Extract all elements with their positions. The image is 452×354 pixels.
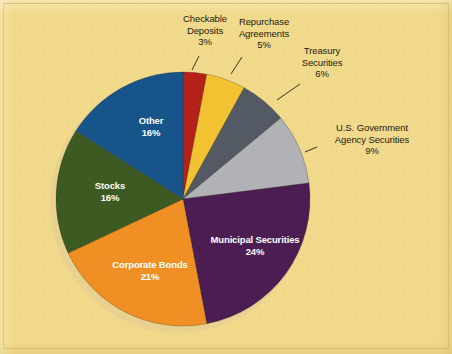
slice-label-other: Other16% — [139, 115, 164, 138]
slice-name-text: U.S. Government — [336, 122, 408, 133]
leader-line-2 — [277, 84, 300, 100]
slice-value-text: 3% — [198, 36, 212, 47]
leader-line-1 — [231, 57, 242, 74]
pie-chart-page: Checkable Deposits 3%Repurchase Agreemen… — [0, 0, 452, 354]
slice-name-text: Agency Securities — [335, 134, 410, 145]
slice-name-text: Deposits — [187, 25, 224, 36]
slice-label-repurchase-agreements: RepurchaseAgreements5% — [239, 16, 290, 50]
slice-name-text: Repurchase — [239, 16, 289, 27]
slice-name-text: Treasury — [304, 45, 341, 56]
slice-label-treasury-securities: TreasurySecurities6% — [302, 45, 343, 79]
slice-name-text: Corporate Bonds — [112, 259, 187, 270]
leader-line-3 — [305, 147, 317, 152]
slice-name-text: Municipal Securities — [211, 234, 300, 245]
leader-line-0 — [192, 56, 199, 70]
slice-value-text: 6% — [315, 68, 329, 79]
slice-value-text: 5% — [257, 39, 271, 50]
slice-name-text: Agreements — [239, 28, 290, 39]
slice-name-text: Stocks — [95, 180, 125, 191]
slice-value-text: 16% — [101, 192, 120, 203]
slice-name-text: Other — [139, 115, 164, 126]
slice-value-text: 9% — [365, 145, 379, 156]
pie-chart-figure: Checkable Deposits 3%Repurchase Agreemen… — [0, 0, 452, 354]
slice-name-text: Checkable — [183, 13, 227, 24]
pie-slices: Checkable Deposits 3%Repurchase Agreemen… — [56, 72, 310, 326]
slice-label-checkable-deposits: CheckableDeposits3% — [183, 13, 227, 47]
slice-value-text: 16% — [142, 127, 161, 138]
slice-value-text: 24% — [246, 246, 265, 257]
slice-label-u-s-government-agency-securities: U.S. GovernmentAgency Securities9% — [335, 122, 410, 156]
slice-name-text: Securities — [302, 57, 343, 68]
slice-value-text: 21% — [141, 271, 160, 282]
